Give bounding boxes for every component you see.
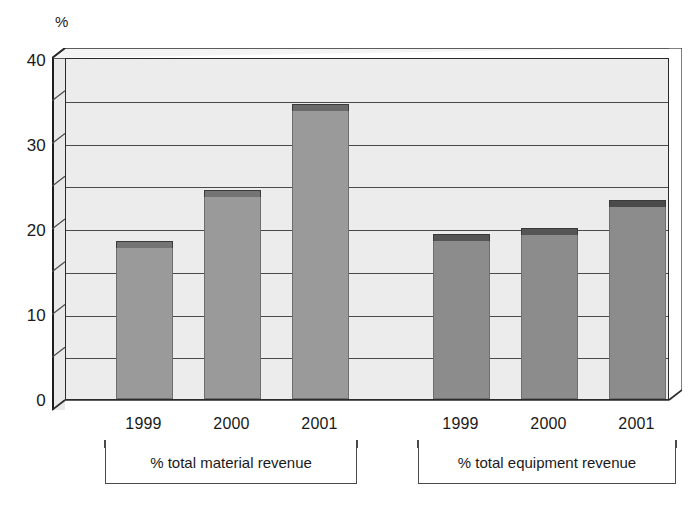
group-bracket-material: % total material revenue [105, 448, 357, 484]
x-tick-equipment-2001: 2001 [608, 416, 665, 432]
bar-face [292, 111, 349, 399]
group-label-material: % total material revenue [106, 455, 356, 471]
y-tick-20: 20 [2, 222, 46, 239]
bar-face [521, 235, 578, 399]
x-tick-material-1999: 1999 [115, 416, 172, 432]
bar-material-2001[interactable] [292, 104, 349, 399]
gridline-30 [66, 145, 668, 146]
x-tick-equipment-1999: 1999 [432, 416, 489, 432]
plot-face [65, 58, 669, 400]
bracket-left-tip [417, 440, 419, 448]
bracket-left-tip [104, 440, 106, 448]
bar-face [116, 248, 173, 399]
bracket-right-tip [356, 440, 358, 448]
bar-equipment-2001[interactable] [609, 200, 666, 399]
x-tick-material-2000: 2000 [203, 416, 260, 432]
plot-depth-left-face [52, 58, 65, 410]
bar-face [204, 197, 261, 399]
bar-equipment-1999[interactable] [433, 234, 490, 399]
bracket-right-tip [675, 440, 677, 448]
group-label-equipment: % total equipment revenue [419, 455, 675, 471]
bar-face [433, 241, 490, 399]
x-tick-material-2001: 2001 [291, 416, 348, 432]
gridline-25 [66, 187, 668, 188]
gridline-35 [66, 102, 668, 103]
y-axis-labels: 40 30 20 10 0 [0, 0, 46, 506]
y-axis-unit-label: % [55, 14, 69, 30]
y-tick-0: 0 [2, 392, 46, 409]
y-tick-10: 10 [2, 307, 46, 324]
bar-equipment-2000[interactable] [521, 228, 578, 399]
x-tick-equipment-2000: 2000 [520, 416, 577, 432]
bar-material-2000[interactable] [204, 190, 261, 399]
group-bracket-equipment: % total equipment revenue [418, 448, 676, 484]
bar-face [609, 207, 666, 399]
y-tick-40: 40 [2, 52, 46, 69]
bar-chart: % 40 30 20 10 0 [0, 0, 694, 506]
bar-material-1999[interactable] [116, 241, 173, 399]
plot-area [52, 48, 682, 411]
y-tick-30: 30 [2, 137, 46, 154]
